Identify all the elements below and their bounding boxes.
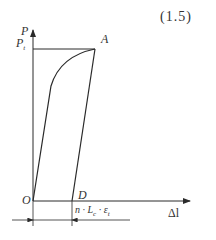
- loading-curve: [33, 49, 95, 201]
- point-a-label: A: [101, 33, 108, 45]
- origin-label: O: [22, 194, 31, 206]
- dimension-label: n · Lc · εt: [75, 205, 110, 218]
- x-axis-label: Δl: [168, 207, 179, 219]
- unloading-line: [72, 49, 95, 201]
- diagram-root: (1.5) P Pt A O D n · Lc · εt Δl: [0, 0, 216, 240]
- yield-load-label: Pt: [16, 37, 25, 52]
- point-d-label: D: [78, 189, 87, 201]
